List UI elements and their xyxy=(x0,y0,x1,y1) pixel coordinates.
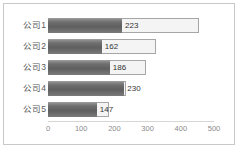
table-row: 公司1 223 xyxy=(4,15,236,36)
bar-1[interactable] xyxy=(48,39,102,54)
value-label-2: 186 xyxy=(113,60,126,75)
x-tick-1: 100 xyxy=(75,124,88,133)
category-label-0: 公司1 xyxy=(10,15,46,36)
value-label-4: 147 xyxy=(100,102,113,117)
bar-track-1: 162 xyxy=(48,39,156,54)
category-label-1: 公司2 xyxy=(10,36,46,57)
table-row: 公司4 230 xyxy=(4,78,236,99)
table-row: 公司5 147 xyxy=(4,99,236,120)
value-label-1: 162 xyxy=(105,39,118,54)
x-tick-2: 200 xyxy=(108,124,121,133)
bar-3[interactable] xyxy=(48,81,124,96)
bar-track-2: 186 xyxy=(48,60,146,75)
table-row: 公司2 162 xyxy=(4,36,236,57)
chart-frame: 公司1 223 公司2 162 公司3 186 公司4 xyxy=(3,3,235,145)
bar-track-4: 147 xyxy=(48,102,109,117)
category-label-3: 公司4 xyxy=(10,78,46,99)
category-label-4: 公司5 xyxy=(10,99,46,120)
bar-2[interactable] xyxy=(48,60,110,75)
bar-0[interactable] xyxy=(48,18,122,33)
bar-4[interactable] xyxy=(48,102,97,117)
value-label-0: 223 xyxy=(125,18,138,33)
x-axis-line xyxy=(48,121,214,122)
plot-area: 公司1 223 公司2 162 公司3 186 公司4 xyxy=(4,4,236,146)
bar-track-0: 223 xyxy=(48,18,199,33)
x-tick-3: 300 xyxy=(141,124,154,133)
bar-track-3: 230 xyxy=(48,81,126,96)
x-tick-0: 0 xyxy=(46,124,50,133)
category-label-2: 公司3 xyxy=(10,57,46,78)
x-axis: 0 100 200 300 400 500 xyxy=(4,121,236,137)
x-tick-5: 500 xyxy=(208,124,221,133)
value-label-3: 230 xyxy=(127,81,140,96)
table-row: 公司3 186 xyxy=(4,57,236,78)
x-tick-4: 400 xyxy=(175,124,188,133)
